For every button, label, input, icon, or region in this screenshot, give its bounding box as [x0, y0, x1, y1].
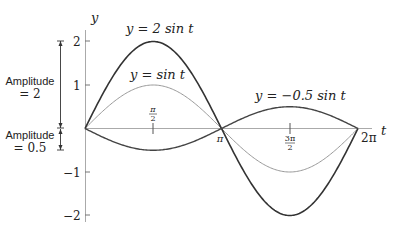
- y-tick-label-m1: −1: [63, 166, 81, 180]
- arrowhead-down-icon: [59, 145, 63, 150]
- t-tick-label-pi-half-den: 2: [150, 114, 155, 123]
- curve-label-sin: y = sin t: [129, 67, 186, 82]
- y-tick-label-m2: −2: [63, 209, 81, 223]
- amplitude-05-label-line2: = 0.5: [14, 141, 47, 155]
- t-tick-label-pi-half-num: π: [149, 105, 156, 114]
- t-tick-label-2pi: 2π: [361, 131, 377, 145]
- curve-label-2sin: y = 2 sin t: [125, 21, 194, 36]
- arrowhead-down-icon: [59, 123, 63, 128]
- curve-label-neg05sin: y = −0.5 sin t: [254, 88, 347, 103]
- amplitude-2-label-line1: Amplitude: [6, 75, 55, 87]
- t-tick-label-3pi-half-num: 3π: [285, 134, 295, 143]
- arrowhead-up-icon: [59, 129, 63, 134]
- arrowhead-up-icon: [59, 41, 63, 46]
- t-tick-label-3pi-half-den: 2: [287, 143, 292, 152]
- sine-amplitude-diagram: y t 2 1 −1 −2 π 2 π 3π 2 2π y = 2 sin t …: [0, 0, 399, 235]
- amplitude-05-label-line1: Amplitude: [6, 129, 55, 141]
- amplitude-2-label-line2: = 2: [19, 87, 41, 101]
- y-tick-label-2: 2: [73, 35, 81, 49]
- t-axis-label: t: [381, 123, 387, 138]
- y-axis-label: y: [90, 10, 99, 25]
- t-tick-label-pi: π: [216, 133, 224, 144]
- y-tick-label-1: 1: [73, 79, 81, 93]
